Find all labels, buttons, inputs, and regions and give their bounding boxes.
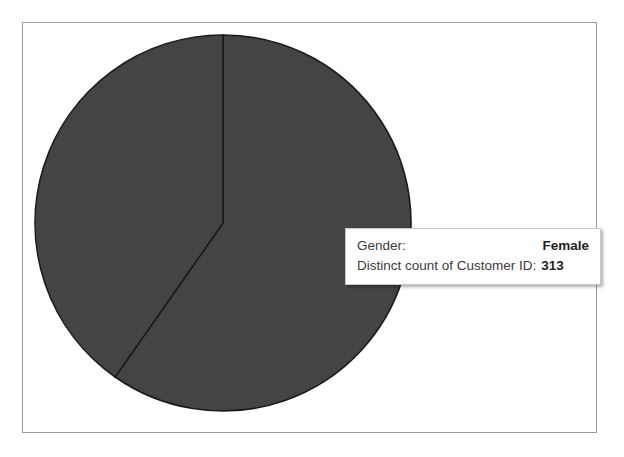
tooltip-dimension-value: Female <box>542 236 589 256</box>
tooltip-dimension-label: Gender: <box>357 236 406 256</box>
visualization-root: Gender: Female Distinct count of Custome… <box>0 0 624 457</box>
tooltip-measure-label: Distinct count of Customer ID: <box>357 256 536 276</box>
chart-tooltip: Gender: Female Distinct count of Custome… <box>345 228 601 285</box>
chart-frame: Gender: Female Distinct count of Custome… <box>22 22 597 433</box>
tooltip-row-measure: Distinct count of Customer ID: 313 <box>357 256 589 276</box>
tooltip-measure-value: 313 <box>541 256 564 276</box>
tooltip-row-dimension: Gender: Female <box>357 236 589 256</box>
